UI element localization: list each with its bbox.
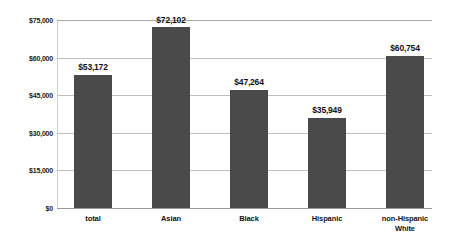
x-tick-label-asian-line1: Asian — [161, 214, 181, 223]
y-tick-label-15000: $15,000 — [1, 167, 53, 174]
x-tick-label-asian: Asian — [131, 214, 211, 224]
y-tick-label-75000: $75,000 — [1, 17, 53, 24]
y-tick-label-30000: $30,000 — [1, 129, 53, 136]
bar-total[interactable] — [74, 75, 112, 208]
plot-area: $53,172 $72,102 $47,264 $35,949 $60,754 — [57, 20, 432, 208]
bar-group-black: $47,264 — [230, 20, 268, 208]
bar-value-label-non-hispanic-white: $60,754 — [390, 43, 419, 53]
bar-chart: $75,000 $60,000 $45,000 $30,000 $15,000 … — [0, 0, 455, 252]
x-tick-label-hispanic-line1: Hispanic — [312, 214, 342, 223]
y-tick-label-45000: $45,000 — [1, 92, 53, 99]
x-tick-label-black-line1: Black — [239, 214, 259, 223]
x-tick-label-total-line1: total — [85, 214, 100, 223]
bar-group-hispanic: $35,949 — [308, 20, 346, 208]
bar-value-label-hispanic: $35,949 — [312, 105, 341, 115]
bar-value-label-black: $47,264 — [234, 77, 263, 87]
x-axis-labels: total Asian Black Hispanic non-Hispanic … — [57, 214, 432, 252]
bar-value-label-asian: $72,102 — [156, 15, 185, 25]
bar-black[interactable] — [230, 90, 268, 208]
x-tick-label-non-hispanic-white-line1: non-Hispanic — [382, 214, 428, 223]
bar-hispanic[interactable] — [308, 118, 346, 208]
y-axis-labels: $75,000 $60,000 $45,000 $30,000 $15,000 … — [0, 0, 53, 252]
x-tick-label-non-hispanic-white-line2: White — [365, 224, 445, 234]
y-tick-label-60000: $60,000 — [1, 54, 53, 61]
x-tick-label-black: Black — [209, 214, 289, 224]
x-tick-label-hispanic: Hispanic — [287, 214, 367, 224]
y-tick-label-0: $0 — [1, 205, 53, 212]
bar-asian[interactable] — [152, 27, 190, 208]
gridline-baseline-0 — [57, 208, 432, 209]
bar-group-non-hispanic-white: $60,754 — [386, 20, 424, 208]
bar-value-label-total: $53,172 — [78, 62, 107, 72]
bar-group-total: $53,172 — [74, 20, 112, 208]
bar-non-hispanic-white[interactable] — [386, 56, 424, 208]
x-tick-label-total: total — [53, 214, 133, 224]
x-tick-label-non-hispanic-white: non-Hispanic White — [365, 214, 445, 234]
bar-group-asian: $72,102 — [152, 20, 190, 208]
